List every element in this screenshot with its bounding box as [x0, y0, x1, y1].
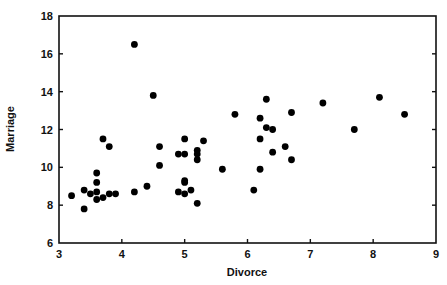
data-point: [112, 190, 119, 197]
data-point: [131, 41, 138, 48]
x-axis-title: Divorce: [227, 266, 267, 278]
data-point: [263, 96, 270, 103]
data-point: [156, 143, 163, 150]
data-point: [257, 115, 264, 122]
y-tick-label: 18: [41, 10, 53, 22]
data-point: [194, 156, 201, 163]
data-point: [100, 136, 107, 143]
y-axis-title: Marriage: [4, 106, 16, 152]
data-point: [232, 111, 239, 118]
data-point: [269, 149, 276, 156]
data-points: [68, 41, 408, 212]
y-tick-label: 8: [47, 199, 53, 211]
data-point: [175, 189, 182, 196]
plot-area: [59, 16, 436, 243]
data-point: [320, 100, 327, 107]
x-tick-label: 3: [56, 248, 62, 260]
plot-border: [59, 16, 436, 243]
data-point: [87, 190, 94, 197]
data-point: [181, 179, 188, 186]
data-point: [269, 126, 276, 133]
y-tick-label: 16: [41, 48, 53, 60]
y-tick-label: 12: [41, 124, 53, 136]
data-point: [93, 179, 100, 186]
data-point: [144, 183, 151, 190]
data-point: [81, 206, 88, 213]
data-point: [282, 143, 289, 150]
data-point: [219, 166, 226, 173]
data-point: [351, 126, 358, 133]
data-point: [194, 200, 201, 207]
data-point: [131, 189, 138, 196]
x-tick-label: 8: [370, 248, 376, 260]
data-point: [376, 94, 383, 101]
data-point: [175, 151, 182, 158]
scatter-chart: 3456789 681012141618 Divorce Marriage: [0, 0, 447, 285]
y-axis: 681012141618: [41, 10, 436, 249]
data-point: [181, 151, 188, 158]
data-point: [250, 187, 257, 194]
data-point: [288, 109, 295, 116]
x-tick-label: 4: [119, 248, 126, 260]
data-point: [263, 124, 270, 131]
y-tick-label: 10: [41, 161, 53, 173]
data-point: [68, 192, 75, 199]
data-point: [200, 137, 207, 144]
x-tick-label: 5: [182, 248, 188, 260]
data-point: [106, 190, 113, 197]
data-point: [93, 189, 100, 196]
y-tick-label: 6: [47, 237, 53, 249]
data-point: [188, 187, 195, 194]
x-tick-label: 7: [307, 248, 313, 260]
data-point: [156, 162, 163, 169]
x-axis: 3456789: [56, 239, 439, 260]
x-tick-label: 9: [433, 248, 439, 260]
data-point: [81, 187, 88, 194]
data-point: [100, 194, 107, 201]
data-point: [106, 143, 113, 150]
data-point: [257, 166, 264, 173]
data-point: [181, 190, 188, 197]
y-tick-label: 14: [41, 86, 54, 98]
data-point: [150, 92, 157, 99]
data-point: [181, 136, 188, 143]
data-point: [288, 156, 295, 163]
data-point: [93, 170, 100, 177]
x-tick-label: 6: [244, 248, 250, 260]
data-point: [257, 136, 264, 143]
data-point: [93, 196, 100, 203]
data-point: [401, 111, 408, 118]
